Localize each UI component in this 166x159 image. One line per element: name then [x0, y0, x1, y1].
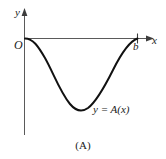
- origin-label: O: [14, 39, 23, 51]
- y-axis-arrow-icon: [22, 8, 28, 16]
- figure-container: y x O b y = A(x) (A): [0, 0, 166, 159]
- figure-caption: (A): [0, 139, 166, 151]
- curve-equation-label: y = A(x): [93, 104, 130, 115]
- plot-canvas: [0, 0, 166, 159]
- y-axis-label: y: [15, 7, 20, 18]
- curve-y-equals-a-of-x: [25, 39, 138, 111]
- x-axis-label: x: [152, 35, 157, 46]
- endpoint-label-b: b: [133, 41, 139, 52]
